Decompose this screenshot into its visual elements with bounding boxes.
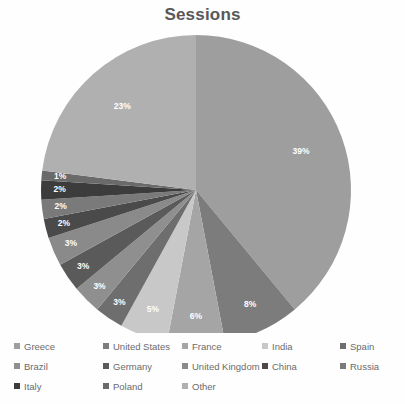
legend-swatch-greece	[14, 343, 20, 349]
legend-label-poland: Poland	[113, 381, 143, 392]
slice-label-other: 23%	[114, 101, 131, 111]
legend-swatch-united-kingdom	[182, 363, 188, 369]
legend-swatch-brazil	[14, 363, 20, 369]
legend-swatch-other	[182, 383, 188, 389]
pie-chart-figure: Sessions 39%8%6%5%3%3%3%3%2%2%2%1%23% Gr…	[0, 0, 405, 404]
legend-item-france[interactable]: France	[182, 336, 222, 356]
slice-label-russia: 2%	[55, 201, 68, 211]
legend-label-brazil: Brazil	[24, 361, 48, 372]
legend-label-italy: Italy	[24, 381, 41, 392]
legend-label-russia: Russia	[350, 361, 379, 372]
legend-label-united-kingdom: United Kingdom	[192, 361, 260, 372]
legend-item-brazil[interactable]: Brazil	[14, 356, 48, 376]
slice-label-brazil: 3%	[93, 281, 106, 291]
legend-swatch-china	[262, 363, 268, 369]
legend-swatch-spain	[340, 343, 346, 349]
chart-legend: GreeceUnited StatesFranceIndiaSpainBrazi…	[0, 336, 405, 402]
legend-swatch-united-states	[103, 343, 109, 349]
legend-item-russia[interactable]: Russia	[340, 356, 379, 376]
legend-label-germany: Germany	[113, 361, 152, 372]
legend-item-italy[interactable]: Italy	[14, 376, 41, 396]
legend-item-india[interactable]: India	[262, 336, 293, 356]
legend-swatch-india	[262, 343, 268, 349]
slice-label-united-kingdom: 3%	[65, 238, 78, 248]
legend-item-greece[interactable]: Greece	[14, 336, 55, 356]
legend-row: BrazilGermanyUnited KingdomChinaRussia	[0, 356, 405, 376]
legend-label-china: China	[272, 361, 297, 372]
legend-item-poland[interactable]: Poland	[103, 376, 143, 396]
chart-title: Sessions	[0, 2, 405, 28]
legend-swatch-russia	[340, 363, 346, 369]
legend-row: GreeceUnited StatesFranceIndiaSpain	[0, 336, 405, 356]
legend-label-spain: Spain	[350, 341, 374, 352]
legend-label-france: France	[192, 341, 222, 352]
slice-label-spain: 3%	[113, 297, 126, 307]
slice-label-germany: 3%	[77, 261, 90, 271]
slice-label-france: 6%	[190, 311, 203, 321]
legend-item-united-kingdom[interactable]: United Kingdom	[182, 356, 260, 376]
legend-swatch-germany	[103, 363, 109, 369]
pie-svg: 39%8%6%5%3%3%3%3%2%2%2%1%23%	[0, 28, 405, 333]
pie-slice-other[interactable]	[42, 35, 196, 190]
pie-plot-area: 39%8%6%5%3%3%3%3%2%2%2%1%23%	[0, 28, 405, 333]
legend-label-other: Other	[192, 381, 216, 392]
legend-swatch-poland	[103, 383, 109, 389]
slice-label-india: 5%	[147, 304, 160, 314]
slice-label-greece: 39%	[292, 146, 309, 156]
legend-swatch-france	[182, 343, 188, 349]
legend-item-spain[interactable]: Spain	[340, 336, 374, 356]
slice-label-italy: 2%	[53, 184, 66, 194]
legend-row: ItalyPolandOther	[0, 376, 405, 396]
slice-label-poland: 1%	[54, 171, 67, 181]
legend-item-china[interactable]: China	[262, 356, 297, 376]
legend-label-india: India	[272, 341, 293, 352]
legend-item-united-states[interactable]: United States	[103, 336, 170, 356]
slice-label-china: 2%	[58, 218, 71, 228]
legend-swatch-italy	[14, 383, 20, 389]
legend-label-united-states: United States	[113, 341, 170, 352]
pie-slices	[41, 35, 351, 333]
legend-item-other[interactable]: Other	[182, 376, 216, 396]
slice-label-united-states: 8%	[244, 299, 257, 309]
legend-item-germany[interactable]: Germany	[103, 356, 152, 376]
legend-label-greece: Greece	[24, 341, 55, 352]
